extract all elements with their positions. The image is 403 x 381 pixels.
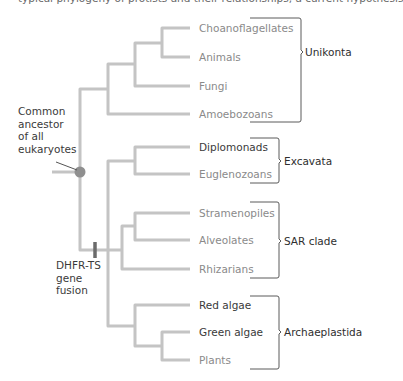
group-brackets: [250, 18, 303, 369]
group-label-unikonta: Unikonta: [305, 46, 352, 58]
branch-amoebozoans: [108, 64, 190, 114]
root-annotation-line-2: ancestor: [18, 118, 76, 131]
taxon-label-green-algae: Green algae: [199, 326, 263, 338]
root-annotation-line-3: of all: [18, 130, 76, 143]
fusion-annotation: DHFR-TS gene fusion: [56, 259, 101, 297]
taxon-label-animals: Animals: [199, 51, 241, 63]
taxon-label-amoebozoans: Amoebozoans: [199, 108, 273, 120]
taxon-label-rhizarians: Rhizarians: [199, 263, 254, 275]
taxon-label-fungi: Fungi: [199, 80, 227, 92]
root-annotation-line-4: eukaryotes: [18, 143, 76, 156]
group-label-archaeplastida: Archaeplastida: [284, 326, 362, 338]
taxon-label-red-algae: Red algae: [199, 299, 251, 311]
fusion-annotation-line-2: gene: [56, 272, 101, 285]
group-label-sar-clade: SAR clade: [284, 235, 337, 247]
root-node-icon: [75, 167, 86, 178]
taxon-label-euglenozoans: Euglenozoans: [199, 168, 272, 180]
root-annotation-line-1: Common: [18, 105, 76, 118]
fusion-annotation-line-1: DHFR-TS: [56, 259, 101, 272]
taxon-label-stramenopiles: Stramenopiles: [199, 207, 275, 219]
branch-green-plants: [162, 332, 190, 360]
root-pointer-line: [56, 162, 77, 170]
taxon-label-alveolates: Alveolates: [199, 234, 254, 246]
root-annotation: Common ancestor of all eukaryotes: [18, 105, 76, 155]
branch-choano-animals: [162, 28, 190, 57]
group-label-excavata: Excavata: [284, 155, 332, 167]
branch-sar: [122, 226, 190, 269]
taxon-label-diplomonads: Diplomonads: [199, 141, 268, 153]
branch-excavata: [135, 147, 190, 174]
taxon-label-choanoflagellates: Choanoflagellates: [199, 22, 293, 34]
branch-stram-alv: [135, 213, 190, 240]
taxon-label-plants: Plants: [199, 354, 231, 366]
fusion-annotation-line-3: fusion: [56, 284, 101, 297]
